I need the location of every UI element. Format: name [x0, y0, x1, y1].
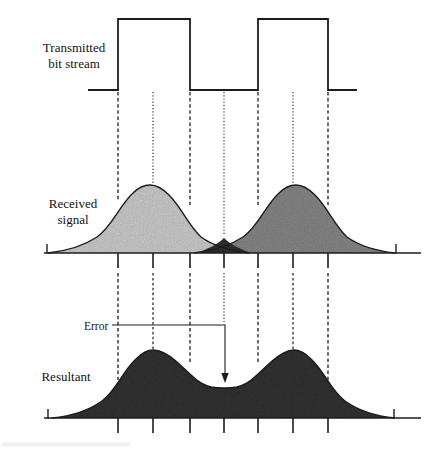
error-arrowhead-icon [221, 373, 228, 383]
resultant-label: Resultant [6, 369, 126, 385]
error-label: Error [84, 318, 114, 334]
transmitted-label-line1: Transmitted [14, 40, 134, 56]
transmitted-label: Transmitted bit stream [14, 40, 134, 72]
received-sample-ticks [118, 253, 328, 268]
transmitted-label-line2: bit stream [14, 56, 134, 72]
cropped-caption-artifact [2, 443, 130, 446]
received-label: Received signal [13, 196, 133, 228]
received-label-line2: signal [13, 212, 133, 228]
isi-diagram: Transmitted bit stream Received signal R… [0, 0, 441, 449]
received-label-line1: Received [13, 196, 133, 212]
resultant-sample-ticks [118, 418, 328, 433]
